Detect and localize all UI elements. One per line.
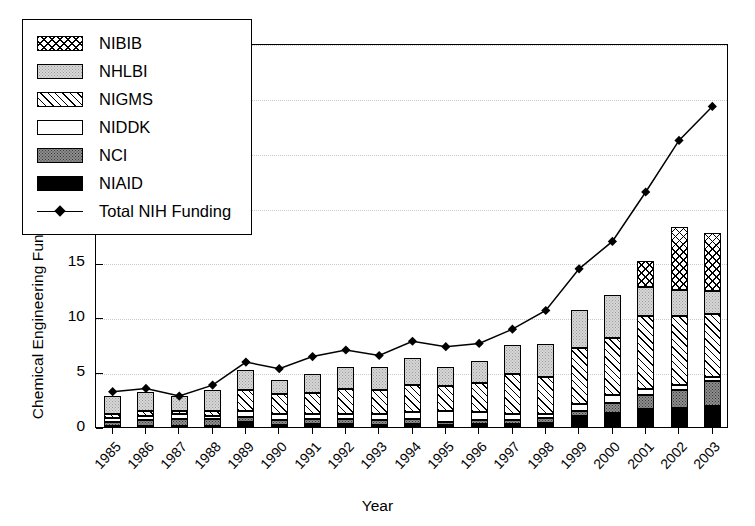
y-tick-label: 15 — [68, 253, 85, 269]
x-tick-mark — [145, 427, 146, 434]
total-line-marker — [308, 352, 317, 361]
total-line-marker — [408, 337, 417, 346]
total-line-marker — [208, 381, 217, 390]
total-line-marker — [275, 364, 284, 373]
chart-figure: Chemical Engineering Funding (Millions U… — [0, 0, 755, 526]
legend-line-diamond-icon — [37, 204, 83, 219]
legend-item-label: Total NIH Funding — [99, 203, 231, 220]
total-line-marker — [508, 325, 517, 334]
legend-item-label: NIDDK — [99, 119, 150, 136]
x-tick-mark — [445, 427, 446, 434]
x-tick-mark — [678, 427, 679, 434]
legend-item-label: NCI — [99, 147, 127, 164]
y-tick-label: 0 — [76, 418, 85, 434]
legend-item-total-nih-funding[interactable]: Total NIH Funding — [23, 197, 251, 225]
legend-swatch-icon — [37, 176, 83, 191]
total-line-marker — [141, 384, 150, 393]
legend-item-nci[interactable]: NCI — [23, 141, 251, 169]
y-tick-mark — [96, 428, 103, 429]
legend-item-label: NHLBI — [99, 63, 148, 80]
x-tick-mark — [612, 427, 613, 434]
legend: NIBIBNHLBINIGMSNIDDKNCINIAIDTotal NIH Fu… — [22, 19, 252, 235]
legend-item-label: NIGMS — [99, 91, 153, 108]
x-tick-mark — [412, 427, 413, 434]
legend-item-nhlbi[interactable]: NHLBI — [23, 57, 251, 85]
legend-swatch-icon — [37, 36, 83, 51]
total-line-marker — [375, 351, 384, 360]
x-tick-mark — [545, 427, 546, 434]
x-tick-mark — [245, 427, 246, 434]
total-line-marker — [108, 387, 117, 396]
legend-item-nigms[interactable]: NIGMS — [23, 85, 251, 113]
x-tick-mark — [378, 427, 379, 434]
x-tick-mark — [578, 427, 579, 434]
total-line-marker — [241, 357, 250, 366]
legend-swatch-icon — [37, 64, 83, 79]
total-line-marker — [341, 345, 350, 354]
x-tick-mark — [645, 427, 646, 434]
x-tick-mark — [478, 427, 479, 434]
legend-swatch-icon — [37, 148, 83, 163]
y-tick-label: 5 — [76, 363, 85, 379]
x-axis-title: Year — [0, 497, 755, 515]
x-tick-mark — [312, 427, 313, 434]
total-line-marker — [475, 339, 484, 348]
x-tick-mark — [345, 427, 346, 434]
x-tick-mark — [278, 427, 279, 434]
legend-item-niaid[interactable]: NIAID — [23, 169, 251, 197]
legend-swatch-icon — [37, 92, 83, 107]
total-line-marker — [441, 342, 450, 351]
x-tick-mark — [178, 427, 179, 434]
y-tick-label: 10 — [68, 308, 85, 324]
x-tick-mark — [712, 427, 713, 434]
x-tick-mark — [212, 427, 213, 434]
total-line-marker — [175, 391, 184, 400]
x-tick-mark — [512, 427, 513, 434]
total-line-marker — [641, 187, 650, 196]
legend-item-nibib[interactable]: NIBIB — [23, 29, 251, 57]
legend-item-label: NIAID — [99, 175, 143, 192]
legend-swatch-icon — [37, 120, 83, 135]
legend-item-label: NIBIB — [99, 35, 142, 52]
x-tick-mark — [112, 427, 113, 434]
legend-item-niddk[interactable]: NIDDK — [23, 113, 251, 141]
